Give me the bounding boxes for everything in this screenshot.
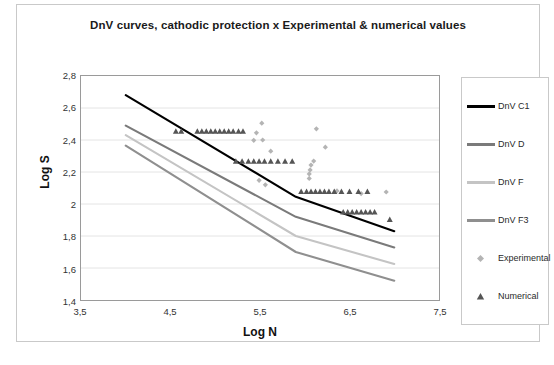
plot-svg bbox=[81, 76, 439, 300]
y-tick-label: 1,8 bbox=[36, 231, 76, 242]
diamond-icon bbox=[477, 255, 484, 262]
numerical-marker bbox=[364, 189, 370, 195]
numerical-marker bbox=[240, 128, 246, 134]
x-tick-label: 7,5 bbox=[415, 306, 465, 317]
experimental-marker bbox=[251, 138, 256, 143]
experimental-marker bbox=[323, 145, 328, 150]
legend-line-swatch bbox=[466, 175, 496, 189]
numerical-marker bbox=[245, 158, 251, 164]
legend-item[interactable]: DnV C1 bbox=[462, 96, 548, 116]
legend-item[interactable]: DnV D bbox=[462, 134, 548, 154]
x-tick-label: 3,5 bbox=[55, 306, 105, 317]
experimental-marker bbox=[260, 137, 265, 142]
series-points bbox=[251, 121, 389, 197]
experimental-marker bbox=[257, 178, 262, 183]
legend-label: Numerical bbox=[496, 291, 539, 301]
legend-item[interactable]: Numerical bbox=[462, 286, 548, 306]
numerical-marker bbox=[173, 128, 179, 134]
numerical-marker bbox=[256, 158, 262, 164]
triangle-icon bbox=[477, 293, 484, 300]
legend-label: DnV D bbox=[496, 139, 525, 149]
legend-label: DnV F bbox=[496, 177, 524, 187]
experimental-marker bbox=[384, 189, 389, 194]
chart-legend: DnV C1DnV DDnV FDnV F3ExperimentalNumeri… bbox=[461, 77, 549, 325]
y-axis-tick-labels: 2,82,62,42,221,81,61,4 bbox=[31, 75, 76, 301]
numerical-marker bbox=[251, 158, 257, 164]
experimental-marker bbox=[268, 149, 273, 154]
numerical-marker bbox=[298, 189, 304, 195]
legend-label: DnV F3 bbox=[496, 215, 529, 225]
experimental-marker bbox=[307, 176, 312, 181]
numerical-marker bbox=[326, 189, 332, 195]
legend-item[interactable]: DnV F bbox=[462, 172, 548, 192]
y-tick-label: 2 bbox=[36, 199, 76, 210]
x-tick-label: 4,5 bbox=[145, 306, 195, 317]
numerical-marker bbox=[268, 158, 274, 164]
y-tick-label: 2,8 bbox=[36, 70, 76, 81]
numerical-marker bbox=[261, 158, 267, 164]
y-tick-label: 2,2 bbox=[36, 166, 76, 177]
experimental-marker bbox=[308, 163, 313, 168]
y-tick-label: 2,4 bbox=[36, 134, 76, 145]
legend-item[interactable]: Experimental bbox=[462, 248, 548, 268]
legend-line-swatch bbox=[466, 137, 496, 151]
x-tick-label: 5,5 bbox=[235, 306, 285, 317]
legend-line-swatch bbox=[466, 213, 496, 227]
numerical-marker bbox=[372, 209, 378, 215]
legend-triangle-swatch bbox=[466, 289, 496, 303]
y-tick-label: 2,6 bbox=[36, 102, 76, 113]
x-axis-tick-labels: 3,54,55,56,57,5 bbox=[80, 306, 440, 322]
line-swatch-icon bbox=[467, 181, 495, 184]
y-tick-label: 1,4 bbox=[36, 296, 76, 307]
numerical-marker bbox=[289, 158, 295, 164]
chart-frame: DnV curves, cathodic protection x Experi… bbox=[16, 4, 540, 342]
numerical-marker bbox=[338, 189, 344, 195]
x-axis-title: Log N bbox=[80, 325, 440, 339]
line-swatch-icon bbox=[467, 219, 495, 222]
experimental-marker bbox=[254, 130, 259, 135]
experimental-marker bbox=[314, 126, 319, 131]
legend-line-swatch bbox=[466, 99, 496, 113]
y-tick-label: 1,6 bbox=[36, 263, 76, 274]
x-tick-label: 6,5 bbox=[325, 306, 375, 317]
line-swatch-icon bbox=[467, 143, 495, 146]
plot-area bbox=[80, 75, 440, 301]
experimental-marker bbox=[263, 182, 268, 187]
numerical-marker bbox=[282, 158, 288, 164]
experimental-marker bbox=[311, 159, 316, 164]
experimental-marker bbox=[259, 121, 264, 126]
chart-screenshot: DnV curves, cathodic protection x Experi… bbox=[0, 0, 554, 365]
legend-diamond-swatch bbox=[466, 251, 496, 265]
line-swatch-icon bbox=[467, 105, 495, 108]
numerical-marker bbox=[275, 158, 281, 164]
numerical-marker bbox=[387, 217, 393, 223]
numerical-marker bbox=[230, 128, 236, 134]
chart-title: DnV curves, cathodic protection x Experi… bbox=[17, 19, 539, 31]
numerical-marker bbox=[347, 189, 353, 195]
numerical-marker bbox=[239, 158, 245, 164]
legend-label: DnV C1 bbox=[496, 101, 530, 111]
legend-label: Experimental bbox=[496, 253, 551, 263]
numerical-marker bbox=[355, 189, 361, 195]
series-line bbox=[126, 135, 395, 264]
legend-item[interactable]: DnV F3 bbox=[462, 210, 548, 230]
